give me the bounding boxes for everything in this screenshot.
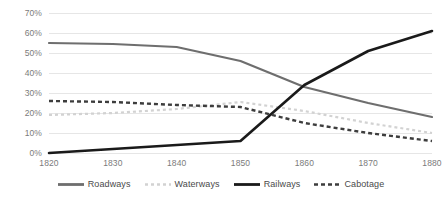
legend-swatch-icon (314, 180, 340, 189)
y-axis-tick-label: 20% (8, 108, 42, 118)
x-axis-tick-label: 1860 (284, 158, 324, 168)
legend-item-cabotage[interactable]: Cabotage (314, 179, 384, 189)
y-axis-tick-label: 0% (8, 148, 42, 158)
chart-legend: RoadwaysWaterwaysRailwaysCabotage (0, 179, 442, 189)
plot-area (0, 0, 442, 201)
legend-item-waterways[interactable]: Waterways (145, 179, 220, 189)
legend-label: Waterways (175, 179, 220, 189)
series-line-railways (49, 31, 432, 153)
y-axis-tick-label: 10% (8, 128, 42, 138)
legend-swatch-icon (234, 180, 260, 189)
y-axis-tick-label: 60% (8, 28, 42, 38)
x-axis-tick-label: 1850 (221, 158, 261, 168)
legend-swatch-icon (58, 180, 84, 189)
legend-swatch-icon (145, 180, 171, 189)
y-axis-tick-label: 40% (8, 68, 42, 78)
legend-label: Railways (264, 179, 301, 189)
line-chart: 70%60%50%40%30%20%10%0% 1820183018401850… (0, 0, 442, 201)
y-axis-tick-label: 70% (8, 8, 42, 18)
gridlines (49, 14, 432, 154)
series-line-cabotage (49, 101, 432, 141)
x-axis-tick-label: 1880 (412, 158, 442, 168)
legend-item-railways[interactable]: Railways (234, 179, 301, 189)
y-axis-tick-label: 50% (8, 48, 42, 58)
legend-label: Cabotage (344, 179, 384, 189)
x-axis-tick-label: 1870 (348, 158, 388, 168)
x-axis-tick-label: 1830 (93, 158, 133, 168)
series-lines (49, 31, 432, 153)
x-axis-tick-label: 1840 (157, 158, 197, 168)
y-axis-tick-label: 30% (8, 88, 42, 98)
legend-label: Roadways (88, 179, 131, 189)
x-axis-tick-label: 1820 (29, 158, 69, 168)
legend-item-roadways[interactable]: Roadways (58, 179, 131, 189)
